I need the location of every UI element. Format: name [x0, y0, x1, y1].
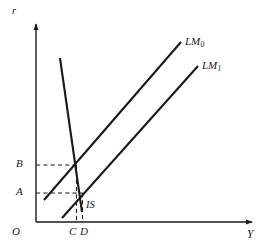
- lm1-curve-label-text: LM: [202, 59, 217, 71]
- is-lm-chart-canvas: [0, 0, 267, 251]
- lm0-curve-label-text: LM: [185, 35, 200, 47]
- lm1-curve: [62, 66, 198, 218]
- is-lm-figure: r Y O B A C D IS LM0 LM1: [0, 0, 267, 251]
- lm1-curve-label: LM1: [202, 60, 221, 71]
- y-tick-label-a: A: [16, 186, 23, 197]
- lm1-curve-label-subscript: 1: [218, 64, 222, 73]
- y-tick-label-b: B: [16, 158, 23, 169]
- is-curve-label-text: IS: [86, 199, 95, 210]
- x-tick-label-c: C: [69, 226, 76, 237]
- curves-group: [44, 42, 198, 218]
- lm0-curve-label-subscript: 0: [201, 40, 205, 49]
- lm0-curve: [44, 42, 181, 200]
- is-curve-label: IS: [86, 200, 95, 211]
- origin-label: O: [12, 226, 20, 237]
- lm0-curve-label: LM0: [185, 36, 204, 47]
- x-tick-label-d: D: [80, 226, 88, 237]
- x-axis-label: Y: [247, 229, 253, 241]
- y-axis-label: r: [12, 6, 16, 17]
- is-curve: [60, 58, 82, 212]
